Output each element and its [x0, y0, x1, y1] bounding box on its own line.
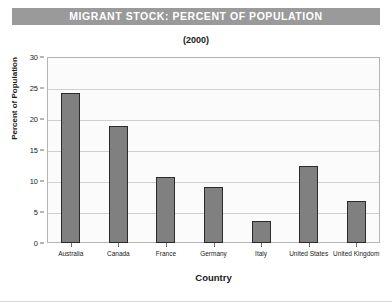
x-axis: AustraliaCanadaFranceGermanyItalyUnited … [47, 250, 380, 262]
y-axis-title: Percent of Population [10, 39, 19, 159]
gridline [48, 151, 379, 152]
x-tick-mark [356, 243, 357, 247]
x-tick-mark [166, 243, 167, 247]
y-tick-mark [40, 212, 44, 213]
gridline [48, 213, 379, 214]
y-tick-label: 20 [30, 115, 38, 124]
gridline [48, 182, 379, 183]
x-tick-label: United States [289, 250, 328, 257]
chart-title: MIGRANT STOCK: PERCENT OF POPULATION [69, 11, 322, 22]
y-axis: 051015202530 [0, 57, 44, 243]
y-tick-label: 0 [34, 239, 38, 248]
y-tick-label: 25 [30, 84, 38, 93]
x-tick-mark [261, 243, 262, 247]
x-tick-mark [118, 243, 119, 247]
y-tick-mark [40, 243, 44, 244]
y-tick-mark [40, 88, 44, 89]
chart-figure: MIGRANT STOCK: PERCENT OF POPULATION (20… [0, 0, 392, 302]
x-tick-label: Italy [255, 250, 267, 257]
y-tick-mark [40, 181, 44, 182]
x-tick-mark [214, 243, 215, 247]
chart-title-banner: MIGRANT STOCK: PERCENT OF POPULATION [12, 8, 380, 25]
y-tick-label: 10 [30, 177, 38, 186]
x-tick-label: Germany [200, 250, 227, 257]
x-tick-mark [309, 243, 310, 247]
x-axis-ticks [47, 243, 380, 248]
y-tick-label: 15 [30, 146, 38, 155]
x-axis-title: Country [47, 272, 380, 283]
x-tick-label: Australia [58, 250, 83, 257]
y-tick-label: 5 [34, 208, 38, 217]
plot-area [47, 57, 380, 243]
y-tick-mark [40, 119, 44, 120]
chart-subtitle: (2000) [0, 35, 392, 45]
x-tick-label: France [156, 250, 176, 257]
x-tick-label: Canada [107, 250, 130, 257]
y-tick-mark [40, 150, 44, 151]
x-tick-label: United Kingdom [333, 250, 379, 257]
y-tick-label: 30 [30, 53, 38, 62]
gridline [48, 89, 379, 90]
x-tick-mark [71, 243, 72, 247]
y-tick-mark [40, 57, 44, 58]
gridline [48, 120, 379, 121]
